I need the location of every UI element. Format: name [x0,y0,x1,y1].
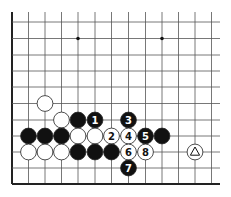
black-stone-7: 7 [121,160,137,176]
white-stone-8: 8 [138,144,154,160]
stone-icon [70,112,86,128]
white-stone-4: 4 [121,128,137,144]
stone-icon [37,144,53,160]
move-number: 8 [142,147,149,158]
white-stone [54,144,70,160]
stone-icon [70,128,86,144]
stone-icon [21,128,37,144]
black-stone [37,128,53,144]
white-stone-2: 2 [104,128,120,144]
black-stone-3: 3 [121,112,137,128]
black-stone [70,144,86,160]
white-stone [54,112,70,128]
star-point-icon [76,37,80,41]
black-stone [54,128,70,144]
white-stone-6: 6 [121,144,137,160]
stone-icon [70,144,86,160]
go-board: 13245687 [0,0,231,197]
white-stone-triangle [187,144,203,160]
move-number: 7 [125,163,132,174]
stone-icon [37,128,53,144]
move-number: 2 [108,131,115,142]
black-stone [70,112,86,128]
white-stone [70,128,86,144]
black-stone [154,128,170,144]
white-stone [37,96,53,112]
stone-icon [37,96,53,112]
stone-icon [54,112,70,128]
stone-icon [87,128,103,144]
stone-icon [104,144,120,160]
move-number: 3 [125,115,132,126]
move-number: 4 [125,131,132,142]
white-stone [21,144,37,160]
black-stone-1: 1 [87,112,103,128]
white-stone [87,128,103,144]
stone-icon [54,128,70,144]
stone-icon [21,144,37,160]
black-stone [21,128,37,144]
black-stone [87,144,103,160]
black-stone-5: 5 [138,128,154,144]
black-stone [104,144,120,160]
move-number: 6 [125,147,132,158]
stone-icon [154,128,170,144]
move-number: 5 [142,131,149,142]
stone-icon [87,144,103,160]
stone-icon [54,144,70,160]
star-point-icon [160,37,164,41]
move-number: 1 [92,115,99,126]
white-stone [37,144,53,160]
